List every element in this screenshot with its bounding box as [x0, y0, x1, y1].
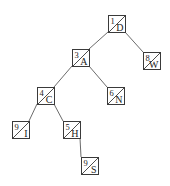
node-number: 5 [66, 122, 70, 132]
node-number: 1 [111, 16, 115, 26]
tree-node-d: 1D [109, 16, 126, 33]
tree-node-a: 3A [73, 50, 90, 67]
tree-node-c: 4C [38, 88, 55, 105]
edge-c-h [54, 104, 63, 121]
node-label: W [149, 59, 159, 70]
node-label: C [46, 94, 53, 105]
tree-node-n: 6N [108, 88, 125, 105]
edge-a-n [89, 66, 107, 87]
node-number: 6 [110, 88, 114, 98]
node-number: 3 [75, 50, 79, 60]
node-number: 9 [84, 158, 88, 168]
edge-h-s [80, 138, 81, 157]
edge-d-a [89, 32, 108, 49]
node-label: N [115, 94, 122, 105]
tree-diagram: 1D3A8W4C6N9I5H9S [0, 0, 170, 186]
node-label: D [116, 22, 123, 33]
edge-c-i [29, 104, 37, 121]
tree-nodes: 1D3A8W4C6N9I5H9S [13, 16, 161, 175]
node-label: I [24, 128, 27, 139]
node-label: S [91, 164, 97, 175]
edge-d-w [125, 32, 143, 52]
tree-node-h: 5H [64, 122, 81, 139]
tree-node-s: 9S [82, 158, 99, 175]
edge-a-c [54, 66, 72, 87]
node-label: H [71, 128, 78, 139]
tree-node-i: 9I [13, 122, 30, 139]
tree-node-w: 8W [144, 53, 161, 70]
node-label: A [80, 56, 88, 67]
node-number: 9 [15, 122, 19, 132]
